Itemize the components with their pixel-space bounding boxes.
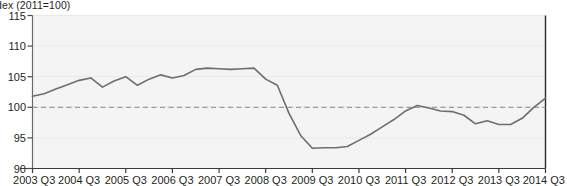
plot-background [33, 16, 546, 169]
chart-container: dex (2011=100) 9095100105110115 2003 Q32… [0, 0, 567, 186]
chart-plot-area [0, 0, 567, 186]
